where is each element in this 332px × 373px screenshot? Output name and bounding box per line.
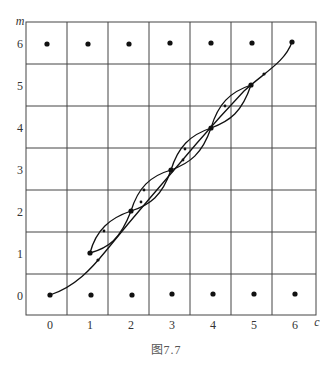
y-tick-5: 5 (17, 79, 23, 94)
x-tick-6: 6 (292, 318, 298, 333)
x-tick-5: 5 (251, 318, 257, 333)
x-tick-1: 1 (87, 318, 93, 333)
y-tick-0: 0 (17, 289, 23, 304)
paths (50, 42, 292, 295)
x-tick-2: 2 (128, 318, 134, 333)
y-tick-1: 1 (17, 247, 23, 262)
x-tick-3: 3 (169, 318, 175, 333)
x-axis-name: c (314, 315, 319, 330)
arrow-markers (96, 72, 265, 261)
y-tick-4: 4 (17, 121, 23, 136)
y-axis-name: m (16, 14, 25, 29)
x-tick-4: 4 (210, 318, 216, 333)
figure-caption: 图7.7 (151, 340, 182, 358)
x-tick-0: 0 (47, 318, 53, 333)
y-tick-2: 2 (17, 205, 23, 220)
y-tick-6: 6 (17, 37, 23, 52)
y-tick-3: 3 (17, 163, 23, 178)
